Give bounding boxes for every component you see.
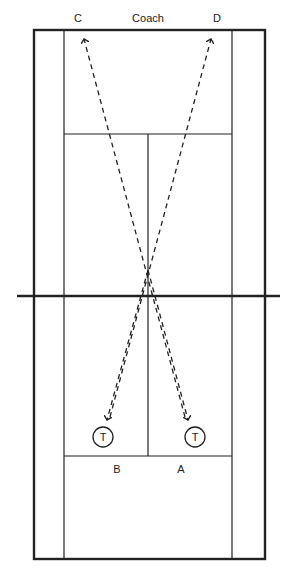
shot-path-to-a: [148, 270, 188, 420]
tennis-court-diagram: T T C Coach D B A: [0, 0, 284, 574]
label-c: C: [74, 12, 82, 24]
player-symbol: T: [192, 431, 199, 443]
label-a: A: [177, 463, 185, 475]
player-symbol: T: [100, 431, 107, 443]
doubles-boundary: [34, 30, 265, 559]
label-b: B: [113, 463, 120, 475]
label-coach: Coach: [132, 12, 164, 24]
shot-path-b-to-d: [110, 39, 211, 417]
player-marker-b: T: [93, 427, 113, 447]
label-d: D: [213, 12, 221, 24]
player-marker-a: T: [185, 427, 205, 447]
shot-path-to-b: [107, 270, 148, 420]
shot-path-a-to-c: [84, 39, 185, 417]
